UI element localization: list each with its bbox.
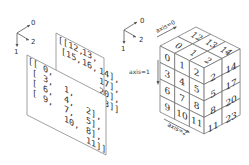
arrowhead-icon (173, 27, 177, 30)
arrowhead-icon (16, 44, 19, 47)
arrowhead-icon (157, 81, 160, 85)
axis-label-0: 0 (31, 19, 35, 27)
axis-label-2: 2 (31, 38, 35, 46)
axis0-label: axis=0 (154, 18, 176, 34)
axis1-annotation: axis=1 (129, 60, 160, 85)
axis-label-0: 0 (140, 17, 144, 25)
left-axes-glyph: 0 2 1 (14, 19, 35, 56)
middle-axes-glyph: 0 2 1 (121, 17, 144, 53)
array-cube: 0 12 1 13 2 14 0 1 2 3 4 5 6 7 8 9 10 11… (160, 27, 240, 135)
axis0-annotation: axis=0 (154, 18, 177, 37)
axis1-label: axis=1 (129, 68, 150, 75)
axis-label-1: 1 (121, 45, 125, 53)
axis-label-1: 1 (14, 48, 18, 56)
axis-label-2: 2 (139, 36, 143, 44)
arrowhead-icon (123, 41, 126, 44)
array-axes-diagram: 0 2 1 [[12, 13, [15, 16, 14], 17], 20], … (0, 0, 249, 165)
